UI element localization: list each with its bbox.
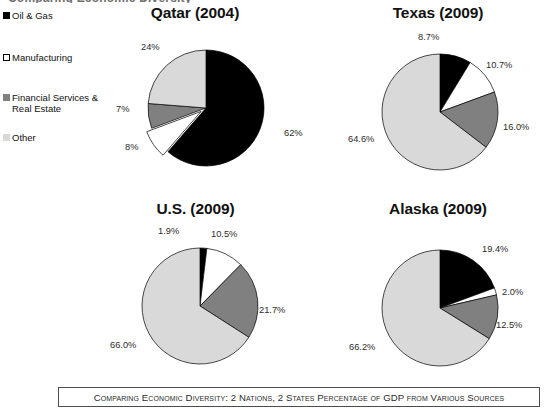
caption-text: Comparing Economic Diversity: 2 Nations,…: [94, 392, 505, 403]
slice-value-label: 8.7%: [418, 32, 439, 42]
pie-chart-alaska: Alaska (2009) 19.4%2.0%12.5%66.2%: [348, 200, 528, 390]
legend-item-other[interactable]: Other: [3, 133, 36, 144]
slice-value-label: 19.4%: [482, 244, 508, 254]
chart-title-texas: Texas (2009): [348, 4, 528, 22]
legend-item-oil-and-gas[interactable]: Oil & Gas: [3, 11, 53, 22]
slice-value-label: 8%: [125, 142, 138, 152]
slice-value-label: 12.5%: [496, 320, 522, 330]
pie-svg: [132, 34, 280, 182]
caption-box: Comparing Economic Diversity: 2 Nations,…: [58, 387, 540, 407]
slice-value-label: 24%: [141, 42, 160, 52]
light-gray-square-swatch: [3, 134, 10, 141]
legend-item-manufacturing[interactable]: Manufacturing: [3, 53, 72, 64]
slice-value-label: 10.5%: [211, 229, 237, 239]
legend-label-other: Other: [12, 133, 36, 144]
pie-svg: [366, 234, 514, 382]
pie-chart-texas: Texas (2009) 8.7%10.7%16.0%64.6%: [348, 4, 528, 200]
clipped-page-title: Comparing Economic Diversity: [8, 0, 528, 3]
slice-value-label: 16.0%: [503, 122, 529, 132]
pie-chart-qatar: Qatar (2004) 62%8%7%24%: [110, 4, 280, 200]
slice-value-label: 66.2%: [349, 342, 375, 352]
pie-canvas-alaska: [366, 234, 514, 382]
gray-square-swatch: [3, 94, 10, 101]
legend-item-financial-services-and-real-estate[interactable]: Financial Services & Real Estate: [3, 93, 99, 114]
slice-value-label: 1.9%: [158, 226, 179, 236]
pie-canvas-us: [126, 232, 274, 380]
legend-label-oil-and-gas: Oil & Gas: [12, 11, 53, 22]
pie-chart-us: U.S. (2009) 1.9%10.5%21.7%66.0%: [108, 200, 283, 390]
slice-value-label: 2.0%: [502, 287, 523, 297]
pie-slice[interactable]: [148, 50, 206, 108]
slice-value-label: 66.0%: [110, 340, 136, 350]
slice-value-label: 21.7%: [259, 305, 285, 315]
white-square-swatch: [3, 54, 10, 61]
black-square-swatch: [3, 12, 10, 19]
legend-label-manufacturing: Manufacturing: [12, 53, 72, 64]
chart-title-qatar: Qatar (2004): [110, 4, 280, 22]
pie-canvas-qatar: [132, 34, 280, 182]
slice-value-label: 10.7%: [486, 60, 512, 70]
slice-value-label: 64.6%: [348, 134, 374, 144]
slice-value-label: 62%: [284, 128, 303, 138]
chart-title-us: U.S. (2009): [108, 200, 283, 218]
legend-label-financial-services-and-real-estate: Financial Services & Real Estate: [12, 93, 99, 114]
pie-svg: [126, 232, 274, 380]
slice-value-label: 7%: [116, 104, 129, 114]
chart-title-alaska: Alaska (2009): [348, 200, 528, 218]
